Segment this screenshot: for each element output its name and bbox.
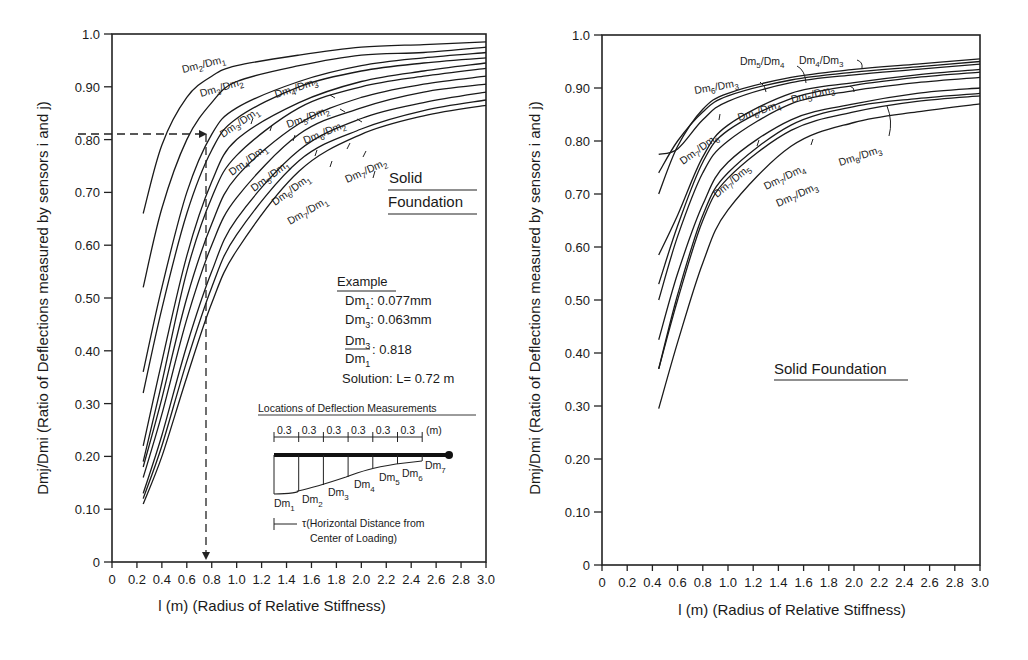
left-x-ticks: 00.20.40.60.81.01.21.41.61.82.02.22.42.6…: [108, 562, 495, 587]
label-dm4-dm1: Dm4/Dm1: [226, 141, 271, 180]
x-tick-label: 2.0: [352, 572, 370, 587]
label-dm6-dm3-top: Dm6/Dm3: [693, 76, 740, 99]
y-tick-label: 0.80: [565, 134, 590, 149]
right-solid-foundation-label: Solid Foundation: [774, 360, 887, 377]
example-ratio-numerator: Dm3: [345, 333, 370, 351]
tau-label-line1: τ(Horizontal Distance from: [302, 517, 425, 529]
x-tick-label: 1.6: [795, 575, 813, 590]
x-tick-label: 2.8: [946, 575, 964, 590]
example-dm1: Dm1: 0.077mm: [345, 293, 432, 311]
svg-text:0.3: 0.3: [277, 424, 292, 436]
right-x-axis-title: l (m) (Radius of Relative Stiffness): [678, 601, 905, 618]
curve-dm7-dm1: [143, 105, 486, 504]
curve-dm5-dm4: [659, 59, 980, 194]
svg-text:0.3: 0.3: [302, 424, 317, 436]
x-tick-label: 1.2: [744, 575, 762, 590]
right-curves: [659, 59, 980, 409]
y-tick-label: 0: [93, 555, 100, 570]
right-x-ticks: 00.20.40.60.81.01.21.41.61.82.02.22.42.6…: [598, 565, 989, 590]
x-tick-label: 1.8: [820, 575, 838, 590]
right-chart-panel: 00.100.200.300.400.500.600.700.800.901.0…: [526, 28, 989, 618]
x-tick-label: 0.6: [669, 575, 687, 590]
x-tick-label: 2.2: [377, 572, 395, 587]
left-solid-label: Solid: [389, 169, 422, 186]
x-tick-label: 2.4: [402, 572, 420, 587]
x-tick-label: 0.8: [694, 575, 712, 590]
sensor-label: Dm7: [425, 459, 446, 475]
inset-unit: (m): [426, 424, 442, 436]
left-y-axis-title: Dmj/Dmi (Ratio of Deflections measured b…: [34, 101, 51, 494]
y-tick-label: 0.30: [565, 399, 590, 414]
y-tick-label: 0: [583, 558, 590, 573]
x-tick-label: 0: [108, 572, 115, 587]
curve-dm7-dm5: [659, 88, 980, 340]
right-y-axis-title: Dmj/Dmi (Ratio of Deflections measured b…: [526, 101, 543, 494]
x-tick-label: 1.4: [769, 575, 787, 590]
y-tick-label: 0.50: [565, 293, 590, 308]
x-tick-label: 0.4: [153, 572, 171, 587]
label-dm6-dm4: Dm6/Dm4: [736, 98, 783, 126]
tau-label-line2: Center of Loading): [310, 532, 397, 544]
x-tick-label: 0: [598, 575, 605, 590]
x-tick-label: 2.4: [895, 575, 913, 590]
x-tick-label: 2.8: [452, 572, 470, 587]
y-tick-label: 0.90: [565, 81, 590, 96]
label-dm4-dm3: Dm4/Dm3: [799, 54, 844, 69]
x-tick-label: 1.8: [327, 572, 345, 587]
label-dm3-dm2: Dm3/Dm2: [198, 75, 245, 102]
y-tick-label: 0.80: [75, 133, 100, 148]
sensor-label: Dm3: [328, 486, 349, 502]
x-tick-label: 1.0: [228, 572, 246, 587]
svg-text:0.3: 0.3: [376, 424, 391, 436]
x-tick-label: 1.2: [253, 572, 271, 587]
x-tick-label: 3.0: [971, 575, 989, 590]
label-dm5-dm4: Dm5/Dm4: [740, 55, 785, 70]
x-tick-label: 0.2: [618, 575, 636, 590]
inset-sensor-labels: Dm1Dm2Dm3Dm4Dm5Dm6Dm7: [274, 459, 446, 513]
left-chart-panel: 00.100.200.300.400.500.600.700.800.901.0…: [34, 27, 495, 614]
sensor-label: Dm5: [379, 471, 400, 487]
y-tick-label: 0.20: [565, 452, 590, 467]
left-curve-labels: Dm2/Dm1 Dm3/Dm2 Dm3/Dm1 Dm4/Dm3 Dm4/Dm1 …: [181, 52, 391, 229]
x-tick-label: 0.6: [178, 572, 196, 587]
y-tick-label: 0.90: [75, 80, 100, 95]
svg-text:0.3: 0.3: [351, 424, 366, 436]
inset-sensor-lines: [274, 455, 422, 494]
x-tick-label: 2.2: [870, 575, 888, 590]
left-y-ticks: 00.100.200.300.400.500.600.700.800.901.0: [75, 27, 112, 570]
right-y-ticks: 00.100.200.300.400.500.600.700.800.901.0: [565, 28, 602, 573]
x-tick-label: 0.8: [203, 572, 221, 587]
chart-figure: 00.100.200.300.400.500.600.700.800.901.0…: [0, 0, 1028, 660]
deflection-locations-inset: Locations of Deflection Measurements 0.3…: [258, 402, 476, 544]
example-ratio-denominator: Dm1: [345, 351, 370, 369]
label-dm4-dm3: Dm4/Dm3: [273, 75, 320, 103]
y-tick-label: 0.10: [75, 502, 100, 517]
x-tick-label: 3.0: [477, 572, 495, 587]
inset-dimension-ticks: 0.30.30.30.30.30.3: [274, 424, 422, 442]
sensor-label: Dm1: [274, 497, 295, 513]
y-tick-label: 1.0: [572, 28, 590, 43]
example-dm3: Dm3: 0.063mm: [345, 312, 432, 330]
y-tick-label: 0.70: [75, 185, 100, 200]
y-tick-label: 0.60: [565, 240, 590, 255]
x-tick-label: 1.6: [302, 572, 320, 587]
sensor-label: Dm6: [402, 467, 423, 483]
y-tick-label: 0.60: [75, 238, 100, 253]
y-tick-label: 0.70: [565, 187, 590, 202]
y-tick-label: 0.10: [565, 505, 590, 520]
svg-text:0.3: 0.3: [326, 424, 341, 436]
example-block: Example Dm1: 0.077mm Dm3: 0.063mm Dm3 Dm…: [337, 274, 454, 386]
sensor-label: Dm4: [354, 478, 375, 494]
sensor-label: Dm2: [302, 493, 323, 509]
y-tick-label: 0.50: [75, 291, 100, 306]
label-dm7-dm2: Dm7/Dm2: [343, 156, 390, 188]
svg-text:0.3: 0.3: [401, 424, 416, 436]
y-tick-label: 0.40: [565, 346, 590, 361]
x-tick-label: 2.0: [845, 575, 863, 590]
curve-dm6-dm2: [143, 84, 486, 477]
y-tick-label: 0.30: [75, 397, 100, 412]
example-ratio-value: : 0.818: [372, 342, 412, 357]
y-tick-label: 1.0: [82, 27, 100, 42]
y-tick-label: 0.40: [75, 344, 100, 359]
x-tick-label: 0.4: [643, 575, 661, 590]
